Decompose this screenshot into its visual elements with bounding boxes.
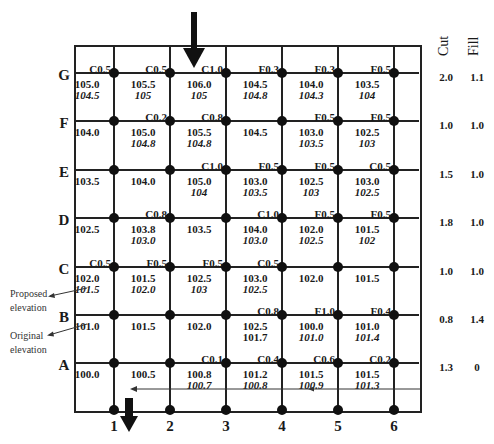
cut-total-f: 1.0 [439, 119, 453, 131]
fill-total-e: 1.0 [470, 168, 484, 180]
cut-total-c: 1.0 [439, 265, 453, 277]
fill-total-b: 1.4 [470, 313, 484, 325]
cut-total-b: 0.8 [439, 313, 453, 325]
cut-total-d: 1.8 [439, 216, 453, 228]
cut-column-header: Cut [436, 36, 452, 56]
grid-diagram: GFEDCBA123456C0.5105.0104.5C0.5105.5105C… [0, 0, 494, 444]
proposed-elevation-label: Proposed elevation [10, 287, 47, 315]
cut-total-a: 1.3 [439, 361, 453, 373]
cut-total-e: 1.5 [439, 168, 453, 180]
annotation-leaders [0, 0, 494, 444]
fill-total-f: 1.0 [470, 119, 484, 131]
fill-total-g: 1.1 [470, 71, 484, 83]
original-elevation-label: Original elevation [10, 329, 47, 357]
cut-total-g: 2.0 [439, 71, 453, 83]
fill-total-a: 0 [474, 361, 480, 373]
fill-total-c: 1.0 [470, 265, 484, 277]
fill-total-d: 1.0 [470, 216, 484, 228]
fill-column-header: Fill [466, 37, 482, 56]
